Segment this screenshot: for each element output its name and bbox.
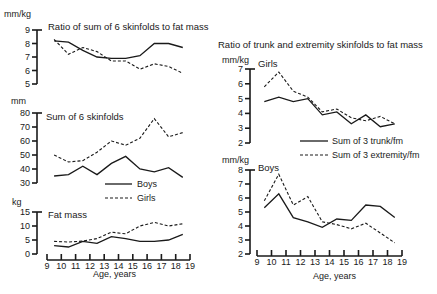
y-tick-label: 7 xyxy=(238,64,243,74)
x-tick-label: 16 xyxy=(142,261,152,271)
x-tick-label: 17 xyxy=(368,257,378,267)
girls-panel-label: Girls xyxy=(258,58,278,69)
y-tick-label: 6 xyxy=(25,66,30,76)
sum-chart-title: Sum of 6 skinfolds xyxy=(46,111,124,122)
y-tick-label: 0 xyxy=(25,249,30,259)
fat-unit-label: kg xyxy=(12,197,22,207)
boys-panel-label: Boys xyxy=(258,162,279,173)
x-tick-label: 11 xyxy=(71,261,80,271)
plot-area: 5678930405060708005101591011121314151617… xyxy=(20,25,407,271)
legend-trunk-label: Sum of 3 trunk/fm xyxy=(332,136,403,146)
y-tick-label: 5 xyxy=(238,94,243,104)
right-xaxis-label: Age, years xyxy=(313,271,357,281)
y-tick-label: 3 xyxy=(238,235,243,245)
y-tick-label: 6 xyxy=(238,79,243,89)
x-tick-label: 19 xyxy=(397,257,407,267)
x-tick-label: 14 xyxy=(324,257,334,267)
y-tick-label: 7 xyxy=(25,52,30,62)
x-tick-label: 15 xyxy=(128,261,138,271)
x-tick-label: 18 xyxy=(382,257,392,267)
y-tick-label: 2 xyxy=(238,249,243,259)
y-tick-label: 9 xyxy=(25,25,30,35)
ratio-chart-title: Ratio of sum of 6 skinfolds to fat mass xyxy=(48,21,209,32)
right-chart-title: Ratio of trunk and extremity skinfolds t… xyxy=(218,39,423,50)
y-tick-label: 80 xyxy=(20,108,30,118)
y-tick-label: 6 xyxy=(238,193,243,203)
x-tick-label: 10 xyxy=(266,257,276,267)
y-tick-label: 5 xyxy=(238,207,243,217)
x-tick-label: 10 xyxy=(56,261,66,271)
y-tick-label: 2 xyxy=(238,138,243,148)
series-line xyxy=(54,119,183,162)
y-tick-label: 30 xyxy=(20,178,30,188)
fat-chart-title: Fat mass xyxy=(48,209,87,220)
y-tick-label: 4 xyxy=(238,221,243,231)
x-tick-label: 12 xyxy=(295,257,305,267)
y-tick-label: 10 xyxy=(20,221,30,231)
ratio-unit-label: mm/kg xyxy=(4,9,31,19)
y-tick-label: 50 xyxy=(20,150,30,160)
series-line xyxy=(54,156,183,177)
series-line xyxy=(54,41,183,59)
y-tick-label: 15 xyxy=(20,207,30,217)
x-tick-label: 9 xyxy=(44,261,49,271)
series-line xyxy=(264,97,395,127)
series-line xyxy=(264,194,395,228)
series-line xyxy=(264,72,395,124)
girls-unit-label: mm/kg xyxy=(222,55,249,65)
y-tick-label: 5 xyxy=(25,79,30,89)
x-tick-label: 14 xyxy=(113,261,123,271)
x-tick-label: 19 xyxy=(185,261,195,271)
y-tick-label: 3 xyxy=(238,123,243,133)
x-tick-label: 17 xyxy=(156,261,166,271)
y-tick-label: 8 xyxy=(25,39,30,49)
x-tick-label: 13 xyxy=(99,261,109,271)
y-tick-label: 7 xyxy=(238,179,243,189)
legend-extremity-label: Sum of 3 extremity/fm xyxy=(332,150,420,160)
legend-boys-label: Boys xyxy=(137,179,158,189)
y-tick-label: 70 xyxy=(20,122,30,132)
x-tick-label: 12 xyxy=(85,261,95,271)
y-tick-label: 8 xyxy=(238,165,243,175)
chart-figure: mm/kg Ratio of sum of 6 skinfolds to fat… xyxy=(0,0,437,294)
y-tick-label: 5 xyxy=(25,235,30,245)
x-tick-label: 15 xyxy=(339,257,349,267)
series-line xyxy=(264,174,395,243)
x-tick-label: 18 xyxy=(171,261,181,271)
boys-unit-label: mm/kg xyxy=(222,155,249,165)
y-tick-label: 4 xyxy=(238,108,243,118)
series-line xyxy=(54,222,183,242)
series-line xyxy=(54,234,183,247)
legend-girls-label: Girls xyxy=(137,193,156,203)
y-tick-label: 60 xyxy=(20,136,30,146)
x-tick-label: 13 xyxy=(310,257,320,267)
y-tick-label: 40 xyxy=(20,164,30,174)
x-tick-label: 16 xyxy=(353,257,363,267)
x-tick-label: 11 xyxy=(281,257,290,267)
x-tick-label: 9 xyxy=(254,257,259,267)
sum-unit-label: mm xyxy=(11,96,26,106)
